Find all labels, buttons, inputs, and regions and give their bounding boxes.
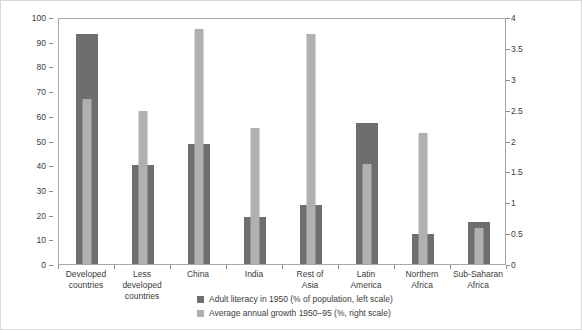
- bar-group: [395, 19, 451, 264]
- x-axis-category-label: Rest of Asia: [282, 269, 338, 291]
- bar-annual-growth: [419, 133, 428, 264]
- right-axis-tick-label: 1.5: [511, 168, 523, 177]
- left-axis-tick-label: 30: [37, 187, 46, 196]
- right-axis-tick-label: 2: [511, 137, 516, 146]
- left-axis-tick-label: 70: [37, 88, 46, 97]
- bar-group: [171, 19, 227, 264]
- legend-item[interactable]: Average annual growth 1950–95 (%, right …: [197, 306, 393, 320]
- right-axis: 00.511.522.533.54: [511, 18, 571, 265]
- left-axis-tick-mark: [49, 216, 53, 217]
- right-axis-tick-mark: [506, 49, 510, 50]
- left-axis-tick-mark: [49, 117, 53, 118]
- right-axis-tick-mark: [506, 80, 510, 81]
- left-axis-tick-label: 90: [37, 38, 46, 47]
- left-axis-tick-label: 10: [37, 236, 46, 245]
- left-axis-tick-mark: [49, 18, 53, 19]
- bar-annual-growth: [83, 99, 92, 264]
- bar-annual-growth: [475, 228, 484, 264]
- left-axis-tick-mark: [49, 142, 53, 143]
- right-axis-tick-label: 0: [511, 261, 516, 270]
- legend-swatch-icon: [197, 310, 204, 317]
- legend-label: Adult literacy in 1950 (% of population,…: [209, 294, 393, 304]
- left-axis-tick-mark: [49, 43, 53, 44]
- right-axis-tick-mark: [506, 172, 510, 173]
- legend-label: Average annual growth 1950–95 (%, right …: [209, 308, 391, 318]
- x-axis-category-label: Developed countries: [58, 269, 114, 291]
- bar-group: [283, 19, 339, 264]
- legend-swatch-icon: [197, 296, 204, 303]
- bar-annual-growth: [251, 128, 260, 264]
- plot-area: [58, 18, 506, 265]
- right-axis-tick-label: 4: [511, 14, 516, 23]
- left-axis-tick-label: 80: [37, 63, 46, 72]
- x-axis-category-label: Less developed countries: [114, 269, 170, 302]
- left-axis-tick-mark: [49, 265, 53, 266]
- left-axis-tick-mark: [49, 67, 53, 68]
- left-axis-tick-mark: [49, 166, 53, 167]
- bar-group: [115, 19, 171, 264]
- right-axis-tick-label: 1: [511, 199, 516, 208]
- right-axis-tick-label: 3.5: [511, 45, 523, 54]
- x-axis-category-label: China: [170, 269, 226, 280]
- right-axis-tick-mark: [506, 203, 510, 204]
- x-axis-category-label: India: [226, 269, 282, 280]
- bar-annual-growth: [195, 29, 204, 264]
- x-axis-category-label: Latin America: [338, 269, 394, 291]
- bar-annual-growth: [139, 111, 148, 264]
- x-axis-category-label: Northern Africa: [394, 269, 450, 291]
- legend-item[interactable]: Adult literacy in 1950 (% of population,…: [197, 292, 393, 306]
- left-axis-tick-label: 20: [37, 211, 46, 220]
- right-axis-tick-mark: [506, 111, 510, 112]
- right-axis-tick-mark: [506, 142, 510, 143]
- left-axis-tick-mark: [49, 191, 53, 192]
- left-axis-tick-label: 40: [37, 162, 46, 171]
- bar-group: [339, 19, 395, 264]
- x-axis-category-label: Sub-Saharan Africa: [450, 269, 506, 291]
- bar-annual-growth: [363, 164, 372, 264]
- bar-group: [451, 19, 507, 264]
- x-axis-tick-mark: [506, 265, 507, 269]
- left-axis: 0102030405060708090100: [1, 18, 53, 265]
- left-axis-tick-label: 50: [37, 137, 46, 146]
- right-axis-tick-label: 3: [511, 76, 516, 85]
- left-axis-tick-mark: [49, 240, 53, 241]
- left-axis-tick-label: 100: [32, 14, 46, 23]
- right-axis-tick-mark: [506, 234, 510, 235]
- right-axis-tick-label: 0.5: [511, 230, 523, 239]
- chart-figure: 0102030405060708090100 00.511.522.533.54…: [0, 0, 582, 330]
- left-axis-tick-mark: [49, 92, 53, 93]
- bar-group: [227, 19, 283, 264]
- chart-legend: Adult literacy in 1950 (% of population,…: [197, 292, 393, 320]
- bar-annual-growth: [307, 34, 316, 264]
- right-axis-tick-label: 2.5: [511, 106, 523, 115]
- left-axis-tick-label: 60: [37, 113, 46, 122]
- left-axis-tick-label: 0: [41, 261, 46, 270]
- bar-group: [59, 19, 115, 264]
- right-axis-tick-mark: [506, 18, 510, 19]
